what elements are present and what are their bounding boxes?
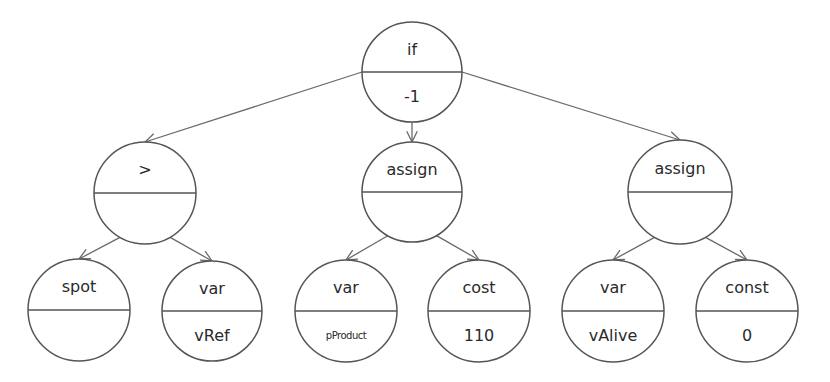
edge-assign1-to-cost	[437, 236, 479, 260]
edge-gt-to-spot	[79, 237, 120, 259]
tree-node-varRef	[162, 261, 262, 361]
node-gt-top-label: >	[138, 160, 151, 179]
tree-node-const	[696, 260, 798, 362]
node-root-bottom-label: -1	[404, 86, 420, 105]
arrowhead-icon	[467, 250, 479, 260]
node-const-top-label: const	[725, 278, 768, 297]
tree-node-varAlive	[562, 260, 664, 362]
edge-gt-to-varRef	[170, 237, 212, 261]
node-cost-bottom-label: 110	[464, 325, 495, 344]
node-varalive-bottom-label: vAlive	[589, 325, 638, 344]
node-assign1-top-label: assign	[386, 159, 437, 178]
node-assign2-top-label: assign	[654, 158, 705, 177]
edge-assign1-to-varProd	[346, 236, 388, 260]
tree-node-root	[362, 22, 462, 122]
node-const-bottom-label: 0	[742, 325, 752, 344]
tree-node-cost	[428, 260, 530, 362]
node-root-top-label: if	[407, 39, 417, 58]
edge-root-to-gt	[145, 72, 362, 142]
arrowhead-icon	[200, 251, 212, 261]
edge-assign2-to-const	[706, 237, 747, 260]
node-varalive-top-label: var	[600, 278, 626, 297]
node-spot-top-label: spot	[62, 277, 97, 296]
node-varref-top-label: var	[199, 278, 225, 297]
tree-node-spot	[28, 259, 130, 361]
tree-node-varProd	[295, 260, 397, 362]
node-cost-top-label: cost	[462, 278, 495, 297]
tree-node-gt	[94, 142, 196, 244]
node-varprod-top-label: var	[333, 278, 359, 297]
node-varprod-bottom-label: pProduct	[326, 329, 366, 340]
node-varref-bottom-label: vRef	[194, 325, 229, 344]
tree-node-assign1	[362, 142, 462, 242]
edge-root-to-assign2	[462, 72, 680, 140]
tree-node-assign2	[628, 140, 732, 244]
edge-assign2-to-varAlive	[613, 237, 654, 260]
expression-tree-diagram: if -1 > assign assign spot var vRef var …	[0, 0, 830, 382]
